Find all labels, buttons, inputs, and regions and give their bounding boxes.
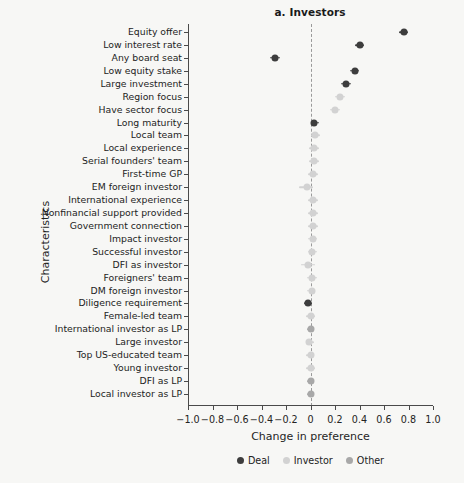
y-tick-mark (184, 200, 188, 201)
plot-area: Equity offerLow interest rateAny board s… (188, 24, 433, 406)
data-point[interactable] (309, 235, 316, 242)
y-tick-mark (184, 97, 188, 98)
data-point[interactable] (305, 300, 312, 307)
data-point[interactable] (311, 158, 318, 165)
y-tick-label: Top US-educated team (77, 351, 182, 360)
x-tick-mark (311, 406, 312, 410)
y-tick-mark (184, 355, 188, 356)
y-tick-mark (184, 252, 188, 253)
data-point[interactable] (308, 274, 315, 281)
data-point[interactable] (312, 132, 319, 139)
y-tick-label: Female-led team (104, 312, 182, 321)
y-tick-label: Government connection (70, 221, 182, 230)
x-tick-label: 0 (307, 414, 313, 425)
y-tick-label: Equity offer (128, 27, 182, 36)
data-point[interactable] (306, 339, 313, 346)
x-tick-label: −0.6 (225, 414, 248, 425)
y-tick-label: Local experience (103, 144, 182, 153)
data-point[interactable] (311, 145, 318, 152)
y-tick-label: Low interest rate (103, 40, 182, 49)
x-tick-label: −0.2 (274, 414, 297, 425)
x-tick-mark (360, 406, 361, 410)
panel-title: a. Investors (0, 6, 464, 18)
y-tick-mark (184, 174, 188, 175)
y-tick-label: Local investor as LP (90, 389, 182, 398)
y-tick-label: Foreigners' team (104, 273, 182, 282)
x-tick-mark (286, 406, 287, 410)
y-tick-label: International experience (68, 195, 182, 204)
y-tick-label: Serial founders' team (82, 157, 182, 166)
y-tick-mark (184, 303, 188, 304)
y-tick-label: EM foreign investor (92, 182, 182, 191)
data-point[interactable] (309, 197, 316, 204)
data-point[interactable] (305, 261, 312, 268)
legend-swatch-icon (237, 457, 244, 464)
data-point[interactable] (400, 29, 407, 36)
y-tick-mark (184, 381, 188, 382)
legend-item[interactable]: Deal (237, 455, 270, 466)
panel-title-text: a. Investors (274, 6, 345, 18)
x-tick-label: 0.2 (327, 414, 342, 425)
y-tick-mark (184, 123, 188, 124)
data-point[interactable] (308, 287, 315, 294)
data-point[interactable] (336, 93, 343, 100)
y-tick-mark (184, 58, 188, 59)
y-tick-label: First-time GP (122, 170, 182, 179)
y-tick-label: Region focus (122, 92, 182, 101)
y-tick-mark (184, 316, 188, 317)
y-tick-mark (184, 161, 188, 162)
y-tick-label: Diligence requirement (78, 299, 182, 308)
data-point[interactable] (307, 365, 314, 372)
y-tick-label: Nonfinancial support provided (42, 208, 182, 217)
data-point[interactable] (356, 41, 363, 48)
x-tick-mark (237, 406, 238, 410)
x-tick-label: 1.0 (425, 414, 440, 425)
legend-label: Investor (294, 455, 333, 466)
y-tick-label: DM foreign investor (91, 286, 182, 295)
legend-item[interactable]: Investor (283, 455, 333, 466)
y-tick-mark (184, 291, 188, 292)
x-tick-label: 0.4 (352, 414, 367, 425)
data-point[interactable] (307, 326, 314, 333)
y-tick-mark (184, 329, 188, 330)
x-tick-label: 0.6 (376, 414, 391, 425)
legend-item[interactable]: Other (346, 455, 384, 466)
y-tick-mark (184, 278, 188, 279)
y-tick-label: International investor as LP (55, 325, 182, 334)
data-point[interactable] (303, 184, 310, 191)
y-axis-line (188, 24, 189, 406)
x-tick-mark (384, 406, 385, 410)
legend-label: Other (357, 455, 384, 466)
data-point[interactable] (311, 119, 318, 126)
x-tick-mark (188, 406, 189, 410)
x-tick-label: −0.8 (201, 414, 224, 425)
y-tick-mark (184, 226, 188, 227)
data-point[interactable] (343, 80, 350, 87)
legend-label: Deal (248, 455, 270, 466)
y-tick-label: Any board seat (112, 53, 182, 62)
data-point[interactable] (271, 54, 278, 61)
y-tick-label: DFI as LP (140, 376, 183, 385)
data-point[interactable] (308, 248, 315, 255)
data-point[interactable] (309, 222, 316, 229)
y-tick-mark (184, 213, 188, 214)
y-tick-mark (184, 342, 188, 343)
data-point[interactable] (307, 352, 314, 359)
figure-panel-a-investors: a. Investors Equity offerLow interest ra… (0, 0, 464, 483)
data-point[interactable] (351, 67, 358, 74)
data-point[interactable] (309, 171, 316, 178)
data-point[interactable] (307, 378, 314, 385)
x-axis-title: Change in preference (188, 430, 433, 443)
y-tick-mark (184, 32, 188, 33)
data-point[interactable] (332, 106, 339, 113)
data-point[interactable] (307, 390, 314, 397)
chart-legend: DealInvestorOther (188, 455, 433, 466)
y-tick-mark (184, 135, 188, 136)
data-point[interactable] (307, 313, 314, 320)
y-tick-mark (184, 148, 188, 149)
data-point[interactable] (309, 209, 316, 216)
legend-swatch-icon (283, 457, 290, 464)
y-axis-title: Characteristics (39, 200, 52, 282)
legend-swatch-icon (346, 457, 353, 464)
y-tick-mark (184, 84, 188, 85)
